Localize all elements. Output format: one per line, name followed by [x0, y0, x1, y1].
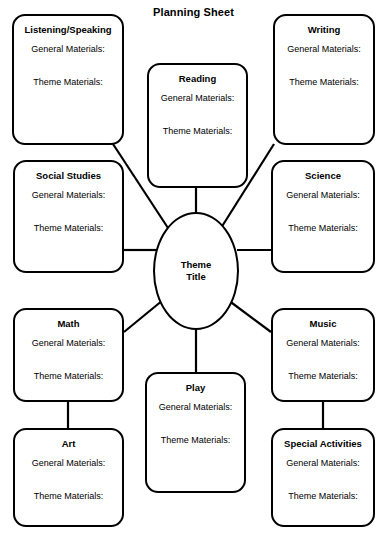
- center-node-label: Theme Title: [181, 259, 212, 283]
- node-math[interactable]: Math General Materials: Theme Materials:: [13, 308, 124, 402]
- node-science[interactable]: Science General Materials: Theme Materia…: [271, 160, 375, 273]
- node-title-writing: Writing: [275, 24, 373, 35]
- node-title-listening-speaking: Listening/Speaking: [14, 24, 122, 35]
- node-title-play: Play: [147, 382, 244, 393]
- node-theme-math: Theme Materials:: [15, 371, 122, 382]
- node-general-art: General Materials:: [15, 458, 122, 469]
- node-title-social-studies: Social Studies: [15, 170, 122, 181]
- node-title-special-activities: Special Activities: [273, 438, 373, 449]
- node-theme-art: Theme Materials:: [15, 491, 122, 502]
- node-title-reading: Reading: [149, 73, 246, 84]
- center-node-label-line1: Theme: [181, 259, 212, 270]
- node-listening-speaking[interactable]: Listening/Speaking General Materials: Th…: [12, 14, 124, 145]
- node-theme-reading: Theme Materials:: [149, 126, 246, 137]
- node-general-special-activities: General Materials:: [273, 458, 373, 469]
- node-music[interactable]: Music General Materials: Theme Materials…: [271, 308, 375, 402]
- node-general-reading: General Materials:: [149, 93, 246, 104]
- node-theme-music: Theme Materials:: [273, 371, 373, 382]
- node-general-science: General Materials:: [273, 190, 373, 201]
- connector-music-to-center: [228, 300, 271, 332]
- node-title-music: Music: [273, 318, 373, 329]
- center-node-theme-title[interactable]: Theme Title: [153, 212, 239, 330]
- node-general-music: General Materials:: [273, 338, 373, 349]
- node-title-math: Math: [15, 318, 122, 329]
- node-general-listening-speaking: General Materials:: [14, 44, 122, 55]
- node-theme-science: Theme Materials:: [273, 223, 373, 234]
- node-writing[interactable]: Writing General Materials: Theme Materia…: [273, 14, 375, 145]
- node-theme-special-activities: Theme Materials:: [273, 491, 373, 502]
- node-special-activities[interactable]: Special Activities General Materials: Th…: [271, 428, 375, 527]
- connector-math-to-center: [124, 300, 163, 332]
- node-general-math: General Materials:: [15, 338, 122, 349]
- node-title-science: Science: [273, 170, 373, 181]
- node-social-studies[interactable]: Social Studies General Materials: Theme …: [13, 160, 124, 273]
- node-theme-social-studies: Theme Materials:: [15, 223, 122, 234]
- node-general-play: General Materials:: [147, 402, 244, 413]
- node-general-writing: General Materials:: [275, 44, 373, 55]
- node-theme-play: Theme Materials:: [147, 435, 244, 446]
- node-play[interactable]: Play General Materials: Theme Materials:: [145, 372, 246, 493]
- planning-sheet-canvas: Planning Sheet Listening/Speaking Genera…: [0, 0, 387, 538]
- center-node-label-line2: Title: [186, 271, 205, 282]
- node-title-art: Art: [15, 438, 122, 449]
- node-art[interactable]: Art General Materials: Theme Materials:: [13, 428, 124, 527]
- node-reading[interactable]: Reading General Materials: Theme Materia…: [147, 63, 248, 188]
- node-general-social-studies: General Materials:: [15, 190, 122, 201]
- node-theme-listening-speaking: Theme Materials:: [14, 77, 122, 88]
- node-theme-writing: Theme Materials:: [275, 77, 373, 88]
